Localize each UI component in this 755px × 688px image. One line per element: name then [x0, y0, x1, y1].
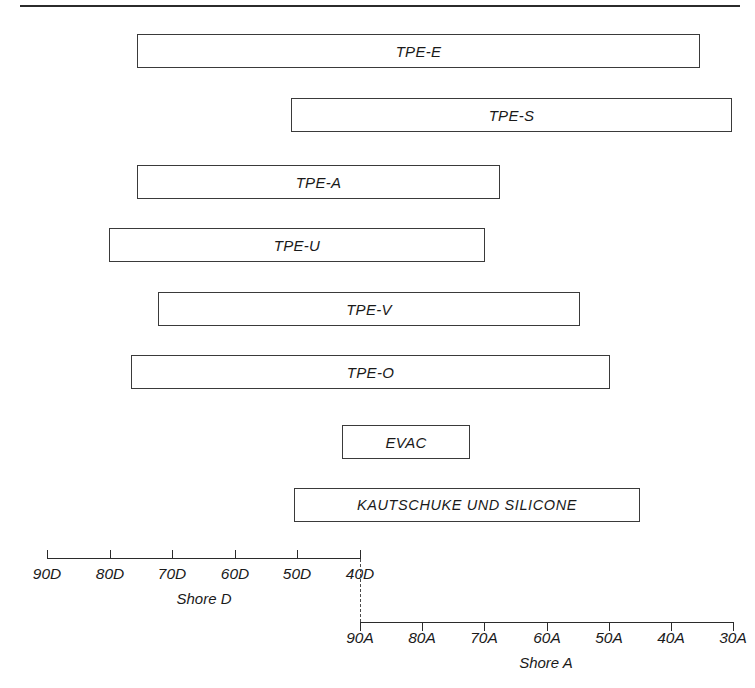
axis-tick-label: 60A: [533, 629, 561, 647]
range-bar-label: KAUTSCHUKE UND SILICONE: [357, 497, 577, 513]
shore-hardness-chart: TPE-ETPE-STPE-ATPE-UTPE-VTPE-OEVACKAUTSC…: [0, 0, 755, 688]
top-divider-rule: [20, 5, 740, 7]
range-bar: TPE-V: [158, 292, 580, 326]
range-bar: TPE-E: [137, 34, 700, 68]
axis-tick-label: 60D: [221, 565, 249, 583]
range-bar: TPE-S: [291, 98, 732, 132]
range-bar: EVAC: [342, 425, 470, 459]
range-bar-label: EVAC: [385, 434, 426, 451]
axis-tick-label: 40A: [657, 629, 685, 647]
axis-tick-label: 90D: [33, 565, 61, 583]
axis-tick: [360, 550, 361, 559]
range-bar-label: TPE-V: [346, 301, 392, 318]
axis-tick-label: 70A: [470, 629, 498, 647]
axis-tick-label: 80D: [96, 565, 124, 583]
axis-tick-label: 80A: [408, 629, 436, 647]
axis-caption-shore-d: Shore D: [176, 590, 231, 607]
axis-connector-dashed-line: [360, 559, 361, 622]
axis-caption-shore-a: Shore A: [519, 654, 573, 671]
range-bar: TPE-O: [131, 355, 610, 389]
axis-tick-label: 50A: [595, 629, 623, 647]
axis-tick: [110, 550, 111, 559]
range-bar-label: TPE-E: [396, 43, 442, 60]
axis-tick-label: 70D: [158, 565, 186, 583]
axis-tick-label: 90A: [346, 629, 374, 647]
axis-line-shore-d: [47, 558, 360, 559]
range-bar: TPE-U: [109, 228, 485, 262]
range-bar: TPE-A: [137, 165, 500, 199]
range-bar-label: TPE-A: [296, 174, 342, 191]
axis-tick-label: 50D: [283, 565, 311, 583]
range-bar-label: TPE-S: [489, 107, 535, 124]
axis-tick: [235, 550, 236, 559]
axis-tick-label: 30A: [719, 629, 747, 647]
axis-tick: [297, 550, 298, 559]
axis-tick: [47, 550, 48, 559]
range-bar-label: TPE-U: [274, 237, 321, 254]
range-bar-label: TPE-O: [347, 364, 394, 381]
axis-tick: [172, 550, 173, 559]
range-bar: KAUTSCHUKE UND SILICONE: [294, 488, 640, 522]
